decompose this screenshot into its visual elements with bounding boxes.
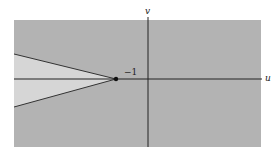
point-label: −1 [124,67,137,77]
complex-plane-diagram: u v −1 [0,0,280,155]
u-axis-label: u [265,73,271,83]
v-axis-label: v [145,6,150,16]
vertex-point [114,77,118,81]
